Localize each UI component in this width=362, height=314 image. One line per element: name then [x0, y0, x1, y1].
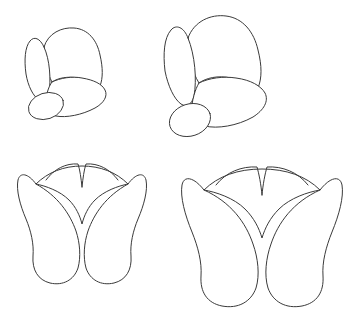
- figure-canvas: [0, 0, 362, 314]
